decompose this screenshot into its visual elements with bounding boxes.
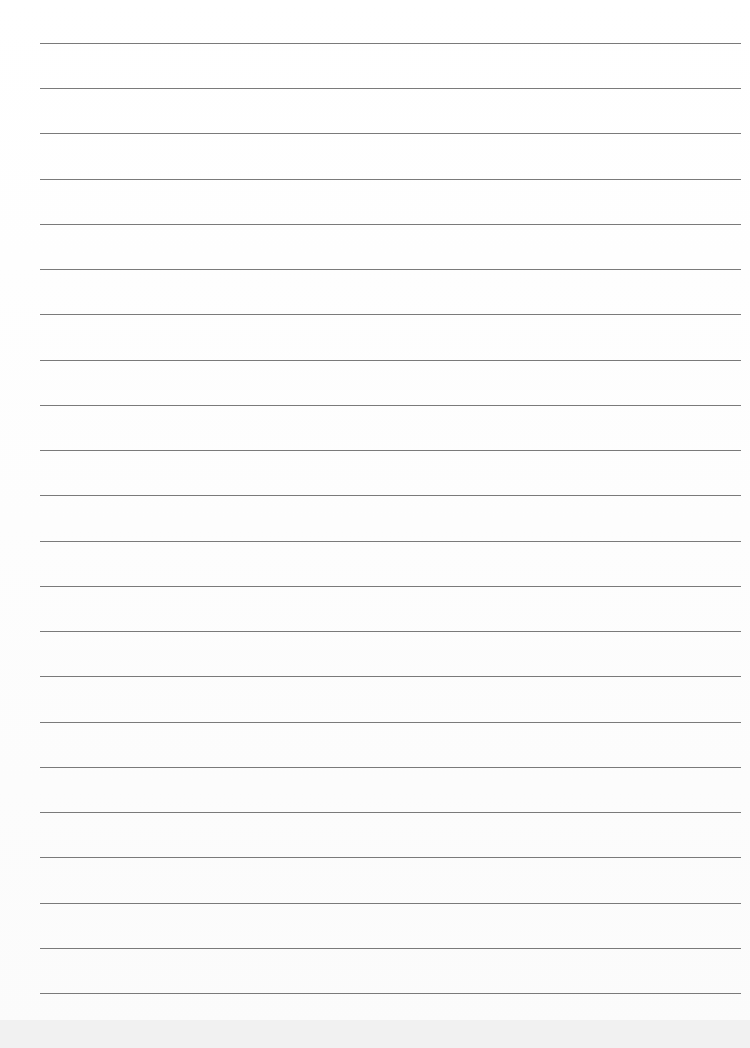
ruled-line xyxy=(40,269,741,270)
ruled-line xyxy=(40,586,741,587)
ruled-line xyxy=(40,631,741,632)
ruled-line xyxy=(40,948,741,949)
ruled-line xyxy=(40,903,741,904)
ruled-line xyxy=(40,450,741,451)
page-bottom-edge xyxy=(0,1020,750,1048)
ruled-line xyxy=(40,993,741,994)
ruled-line xyxy=(40,541,741,542)
ruled-line xyxy=(40,405,741,406)
ruled-line xyxy=(40,857,741,858)
ruled-line xyxy=(40,43,741,44)
ruled-line xyxy=(40,767,741,768)
ruled-line xyxy=(40,179,741,180)
ruled-line xyxy=(40,133,741,134)
ruled-line xyxy=(40,676,741,677)
ruled-line xyxy=(40,88,741,89)
ruled-line xyxy=(40,314,741,315)
ruled-line xyxy=(40,812,741,813)
ruled-line xyxy=(40,224,741,225)
ruled-line xyxy=(40,722,741,723)
ruled-line xyxy=(40,360,741,361)
lined-paper-page xyxy=(0,0,750,1048)
ruled-line xyxy=(40,495,741,496)
